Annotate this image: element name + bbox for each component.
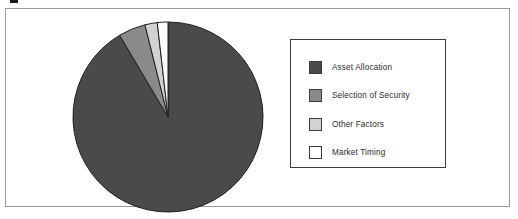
chart-legend: Asset Allocation Selection of Security O… <box>290 39 446 168</box>
figure-root: Asset Allocation Selection of Security O… <box>0 0 518 219</box>
legend-swatch-other-factors <box>309 118 322 131</box>
legend-label-market-timing: Market Timing <box>332 148 385 157</box>
legend-swatch-market-timing <box>309 146 322 159</box>
pie-chart <box>66 15 270 219</box>
caption-stub-artifact <box>10 0 18 3</box>
legend-swatch-asset-allocation <box>309 61 322 74</box>
legend-item-market-timing[interactable]: Market Timing <box>309 139 437 168</box>
legend-label-other-factors: Other Factors <box>332 120 384 129</box>
legend-item-asset-allocation[interactable]: Asset Allocation <box>309 53 437 82</box>
pie-slice-group <box>73 22 263 212</box>
legend-item-selection-of-security[interactable]: Selection of Security <box>309 82 437 111</box>
legend-swatch-selection-of-security <box>309 89 322 102</box>
legend-label-selection-of-security: Selection of Security <box>332 91 410 100</box>
legend-label-asset-allocation: Asset Allocation <box>332 63 392 72</box>
legend-item-list: Asset Allocation Selection of Security O… <box>309 53 437 167</box>
legend-item-other-factors[interactable]: Other Factors <box>309 110 437 139</box>
figure-frame: Asset Allocation Selection of Security O… <box>5 8 510 207</box>
plot-area: Asset Allocation Selection of Security O… <box>6 9 509 206</box>
